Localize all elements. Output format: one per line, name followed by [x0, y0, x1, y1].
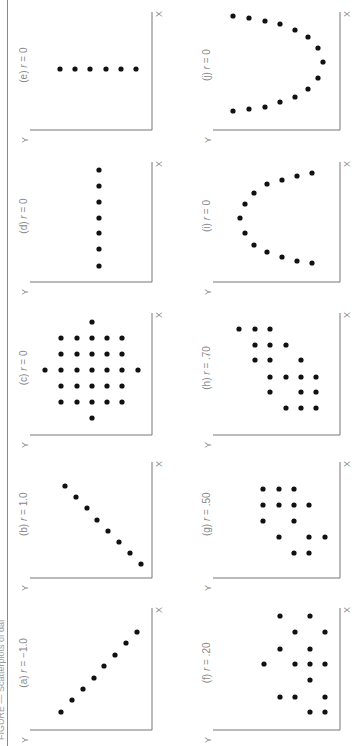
- data-point: [313, 389, 318, 394]
- scatter-panel-h: XY(h) r = .70: [201, 312, 352, 448]
- x-axis-label: X: [154, 161, 164, 167]
- data-point: [276, 534, 281, 539]
- data-point: [74, 399, 79, 404]
- panel-title-g: (g) r = .50: [201, 492, 212, 536]
- data-point: [57, 66, 62, 71]
- data-point: [87, 66, 92, 71]
- data-point: [89, 319, 94, 324]
- data-point: [42, 367, 47, 372]
- data-point: [291, 486, 296, 491]
- x-axis-label: X: [342, 607, 352, 613]
- y-axis-label: Y: [203, 442, 213, 448]
- data-point: [277, 99, 282, 104]
- data-point: [58, 335, 63, 340]
- data-point: [96, 263, 101, 268]
- data-point: [267, 389, 272, 394]
- data-point: [277, 21, 282, 26]
- panel-title-f: (f) r = .20: [201, 642, 212, 683]
- data-point: [294, 173, 299, 178]
- data-point: [116, 539, 121, 544]
- y-axis-label: Y: [20, 737, 30, 743]
- data-point: [267, 357, 272, 362]
- y-axis-label: Y: [203, 137, 213, 143]
- x-axis-label: X: [154, 312, 164, 318]
- data-point: [291, 550, 296, 555]
- data-point: [242, 201, 247, 206]
- data-point: [89, 399, 94, 404]
- data-point: [320, 59, 325, 64]
- data-point: [58, 383, 63, 388]
- data-point: [58, 709, 63, 714]
- scatter-panel-i: XY(i) r = 0: [201, 161, 352, 295]
- data-point: [309, 260, 314, 265]
- data-point: [260, 502, 265, 507]
- data-point: [89, 335, 94, 340]
- data-point: [315, 45, 320, 50]
- data-point: [69, 697, 74, 702]
- y-axis-label: Y: [203, 289, 213, 295]
- panel-title-d: (d) r = 0: [18, 198, 29, 234]
- data-point: [277, 694, 282, 699]
- x-axis-label: X: [342, 461, 352, 467]
- data-point: [264, 249, 269, 254]
- data-point: [134, 629, 139, 634]
- data-point: [118, 66, 123, 71]
- data-point: [105, 528, 110, 533]
- scatter-panel-f: XY(f) r = .20: [201, 607, 352, 743]
- data-point: [298, 389, 303, 394]
- scatterplot-grid: XY(e) r = 0XY(j) r = 0XY(d) r = 0XY(i) r…: [0, 0, 363, 746]
- data-point: [291, 502, 296, 507]
- data-point: [283, 374, 288, 379]
- data-point: [236, 326, 241, 331]
- data-point: [252, 342, 257, 347]
- data-point: [123, 640, 128, 645]
- data-point: [104, 399, 109, 404]
- data-point: [306, 502, 311, 507]
- scatter-panel-e: XY(e) r = 0: [18, 11, 164, 143]
- scatter-panel-c: XY(c) r = 0: [18, 312, 164, 448]
- data-point: [291, 518, 296, 523]
- data-point: [119, 399, 124, 404]
- data-point: [72, 66, 77, 71]
- y-axis-label: Y: [20, 442, 30, 448]
- y-axis-label: Y: [203, 737, 213, 743]
- data-point: [74, 351, 79, 356]
- data-point: [307, 613, 312, 618]
- data-point: [58, 351, 63, 356]
- data-point: [237, 215, 242, 220]
- data-point: [251, 190, 256, 195]
- data-point: [119, 367, 124, 372]
- data-point: [104, 351, 109, 356]
- data-point: [305, 86, 310, 91]
- data-point: [101, 663, 106, 668]
- x-axis-label: X: [342, 312, 352, 318]
- scatter-panel-a: XY(a) r = −1.0: [18, 607, 164, 743]
- data-point: [322, 629, 327, 634]
- data-point: [322, 661, 327, 666]
- x-axis-label: X: [154, 461, 164, 467]
- panel-title-i: (i) r = 0: [201, 200, 212, 232]
- data-point: [246, 15, 251, 20]
- y-axis-label: Y: [20, 585, 30, 591]
- scatter-panel-g: XY(g) r = .50: [201, 461, 352, 591]
- data-point: [307, 661, 312, 666]
- data-point: [252, 357, 257, 362]
- data-point: [104, 383, 109, 388]
- data-point: [119, 351, 124, 356]
- data-point: [89, 351, 94, 356]
- data-point: [252, 326, 257, 331]
- scatter-panel-j: XY(j) r = 0: [201, 11, 352, 143]
- data-point: [313, 374, 318, 379]
- data-point: [74, 383, 79, 388]
- data-point: [96, 183, 101, 188]
- data-point: [127, 550, 132, 555]
- data-point: [283, 342, 288, 347]
- data-point: [276, 486, 281, 491]
- data-point: [292, 694, 297, 699]
- data-point: [277, 646, 282, 651]
- y-axis-label: Y: [20, 289, 30, 295]
- data-point: [119, 383, 124, 388]
- data-point: [242, 230, 247, 235]
- x-axis-label: X: [342, 161, 352, 167]
- data-point: [135, 367, 140, 372]
